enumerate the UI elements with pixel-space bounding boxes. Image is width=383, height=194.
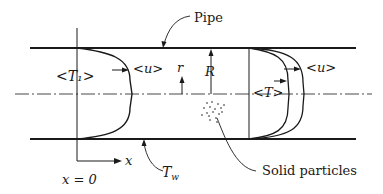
x-axis-arrowhead-icon [114, 158, 122, 164]
velocity-label-right: <u> [306, 60, 336, 75]
axial-coord-label: x [125, 153, 133, 168]
arrowhead-icon [280, 79, 287, 84]
entrance-velocity-profile [77, 48, 132, 139]
pipe-leader-line [164, 16, 190, 44]
particles-leader-line [217, 118, 256, 171]
wall-temp-leader-line [144, 143, 163, 171]
arrowhead-icon [180, 76, 185, 83]
origin-label: x = 0 [62, 172, 97, 187]
particles-label: Solid particles [262, 163, 357, 178]
pipe-flow-diagram: Pipe <T₁> <u> r R <T> <u> x Tw x = 0 Sol… [0, 0, 383, 194]
pipe-label: Pipe [194, 10, 223, 25]
mean-temp-label: <T> [253, 85, 283, 100]
inlet-temp-label: <T₁> [56, 68, 94, 84]
radial-coord-label: r [177, 60, 184, 75]
arrowhead-icon [209, 49, 214, 56]
wall-temp-label: Tw [162, 164, 179, 182]
wall-temp-subscript: w [171, 172, 179, 182]
solid-particles [201, 101, 225, 123]
radius-label: R [204, 64, 215, 79]
velocity-label-left: <u> [133, 61, 163, 76]
